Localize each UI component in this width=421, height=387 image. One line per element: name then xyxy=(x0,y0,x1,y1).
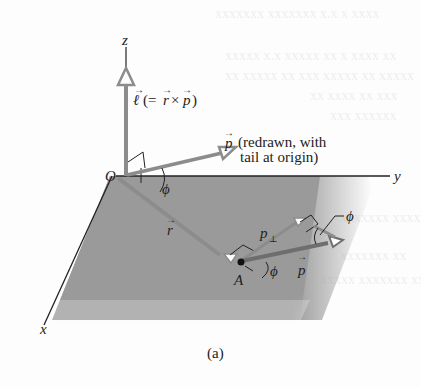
svg-text:→: → xyxy=(162,84,172,95)
p-perp-label: p xyxy=(259,225,268,241)
y-axis-label: y xyxy=(392,168,401,184)
point-A xyxy=(238,259,245,266)
svg-text:→: → xyxy=(297,251,307,262)
figure-caption: (a) xyxy=(207,345,224,362)
origin-label: O xyxy=(105,168,116,184)
p-redrawn-label: → p (redrawn, with tail at origin) xyxy=(224,127,327,166)
phi-label-origin: ϕ xyxy=(162,181,170,197)
p-vector-label: p xyxy=(297,262,306,278)
angular-momentum-label: ℓ (= r × p ) → → → xyxy=(133,84,197,109)
right-angle-marker-origin xyxy=(128,152,145,168)
point-A-label: A xyxy=(233,272,244,288)
p-perp-subscript: ⊥ xyxy=(269,234,277,244)
svg-text:tail at origin): tail at origin) xyxy=(240,149,318,166)
x-axis-label: x xyxy=(39,321,47,337)
phi-label-tip: ϕ xyxy=(346,208,354,224)
z-axis-label: z xyxy=(121,32,128,48)
svg-text:→: → xyxy=(134,84,144,95)
svg-text:(=: (= xyxy=(143,92,156,109)
svg-text:→: → xyxy=(182,84,192,95)
svg-text:p: p xyxy=(224,135,233,151)
svg-text:): ) xyxy=(192,92,197,109)
svg-text:×: × xyxy=(171,92,179,108)
angular-momentum-diagram: z y x O ℓ (= r × p ) → → → → p (redrawn,… xyxy=(0,0,421,387)
phi-label-A: ϕ xyxy=(270,263,278,279)
r-vector-label: r xyxy=(167,222,173,238)
